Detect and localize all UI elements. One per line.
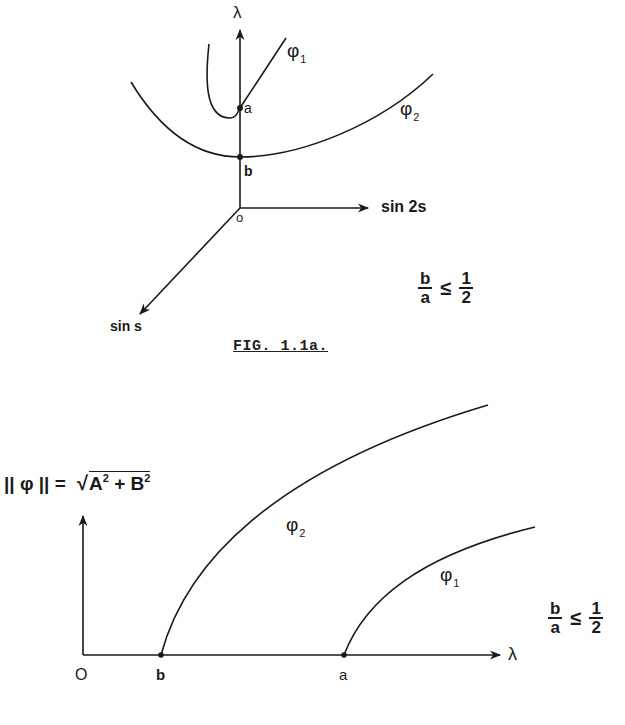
- tick-b-label: b: [156, 666, 165, 683]
- sin2s-axis-label: sin 2s: [381, 198, 426, 216]
- exp-A: 2: [103, 472, 109, 484]
- phi2-symbol-bottom: φ: [286, 514, 298, 535]
- ratio-condition-bottom: ba ≤ 12: [548, 600, 603, 636]
- sins-axis: [140, 208, 240, 314]
- point-a: [238, 106, 242, 110]
- phi1-label-bottom: φ1: [440, 564, 459, 586]
- top-figure: [131, 30, 433, 314]
- phi2-curve: [131, 74, 433, 157]
- tick-a: [342, 653, 346, 657]
- origin-label-bottom: O: [75, 666, 87, 684]
- phi2-label-bottom: φ2: [286, 514, 305, 536]
- phi2-subscript-bottom: 2: [299, 527, 305, 539]
- phi1-label: φ1: [287, 40, 306, 62]
- bottom-figure: [83, 405, 535, 657]
- phi1-subscript: 1: [300, 53, 306, 65]
- tick-a-label: a: [339, 666, 347, 683]
- phi1-symbol-bottom: φ: [440, 564, 452, 585]
- lambda-axis-label: λ: [233, 3, 242, 23]
- point-b-label: b: [244, 163, 253, 179]
- exp-B: 2: [144, 472, 150, 484]
- phi1-symbol: φ: [287, 40, 299, 61]
- tick-b: [159, 653, 163, 657]
- half-denominator-bottom: 2: [591, 619, 600, 636]
- phi2-label: φ2: [400, 98, 419, 120]
- origin-label: o: [236, 210, 243, 225]
- figure-canvas: [0, 0, 625, 725]
- leq-symbol-bottom: ≤: [570, 607, 581, 630]
- phi1-subscript-bottom: 1: [453, 577, 459, 589]
- term-B: B: [131, 473, 145, 494]
- point-a-label: a: [244, 100, 252, 116]
- norm-axis-label: || φ || = √A2 + B2: [4, 471, 150, 495]
- ratio-denominator-bottom: a: [550, 619, 559, 636]
- term-A: A: [89, 473, 103, 494]
- phi2-symbol: φ: [400, 98, 412, 119]
- figure-caption-top: FIG. 1.1a.: [233, 338, 328, 355]
- sins-axis-label: sin s: [110, 318, 142, 334]
- sqrt-icon: √: [77, 472, 88, 494]
- leq-symbol: ≤: [440, 277, 451, 300]
- norm-lhs: || φ || =: [4, 473, 66, 494]
- radicand: A2 + B2: [89, 471, 150, 495]
- half-numerator-bottom: 1: [589, 600, 602, 619]
- point-b: [238, 155, 242, 159]
- phi1-curve-bottom: [344, 527, 535, 655]
- phi2-curve-bottom: [161, 405, 488, 655]
- half-denominator: 2: [461, 289, 470, 306]
- ratio-denominator: a: [420, 289, 429, 306]
- ratio-condition-top: ba ≤ 12: [418, 270, 473, 306]
- ratio-numerator: b: [418, 270, 432, 289]
- half-numerator: 1: [459, 270, 472, 289]
- ratio-numerator-bottom: b: [548, 600, 562, 619]
- phi2-subscript: 2: [413, 111, 419, 123]
- plus-sign: +: [109, 473, 131, 494]
- lambda-axis-label-bottom: λ: [508, 644, 517, 665]
